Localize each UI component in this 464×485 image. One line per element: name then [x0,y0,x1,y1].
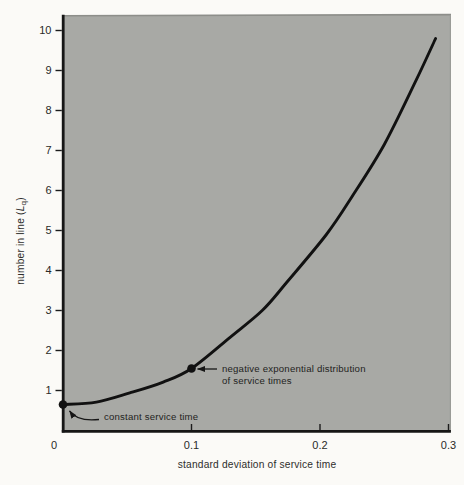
y-tick-label: 4 [45,264,51,276]
x-tick-label: 0.1 [184,439,199,451]
y-axis-title-suffix: ) [15,197,26,201]
queueing-line-chart: 12345678910 00.10.20.3 constant service … [0,0,464,485]
data-point-dot [59,400,68,409]
annotation-label-line: negative exponential distribution [222,363,366,374]
y-tick-label: 2 [45,344,51,356]
annotation-label-line: constant service time [104,411,198,422]
y-tick-label: 6 [45,184,51,196]
y-axis-ticks: 12345678910 [39,24,62,396]
y-tick-label: 10 [39,24,51,36]
y-axis-title-prefix: number in line ( [15,211,26,285]
y-tick-label: 7 [45,144,51,156]
y-tick-label: 3 [45,304,51,316]
y-tick-label: 1 [45,384,51,396]
x-tick-label: 0.2 [312,439,327,451]
y-tick-label: 5 [45,224,51,236]
x-tick-label: 0.3 [441,439,456,451]
annotation-label-line: of service times [222,375,292,386]
annotation-label: constant service time [104,411,198,422]
data-point-dot [187,364,196,373]
y-tick-label: 9 [45,64,51,76]
chart-canvas: 12345678910 00.10.20.3 constant service … [0,0,464,485]
x-tick-label: 0 [51,439,57,451]
y-axis-title: number in line (Lq) [15,197,28,285]
y-tick-label: 8 [45,104,51,116]
x-axis-title: standard deviation of service time [178,459,337,470]
